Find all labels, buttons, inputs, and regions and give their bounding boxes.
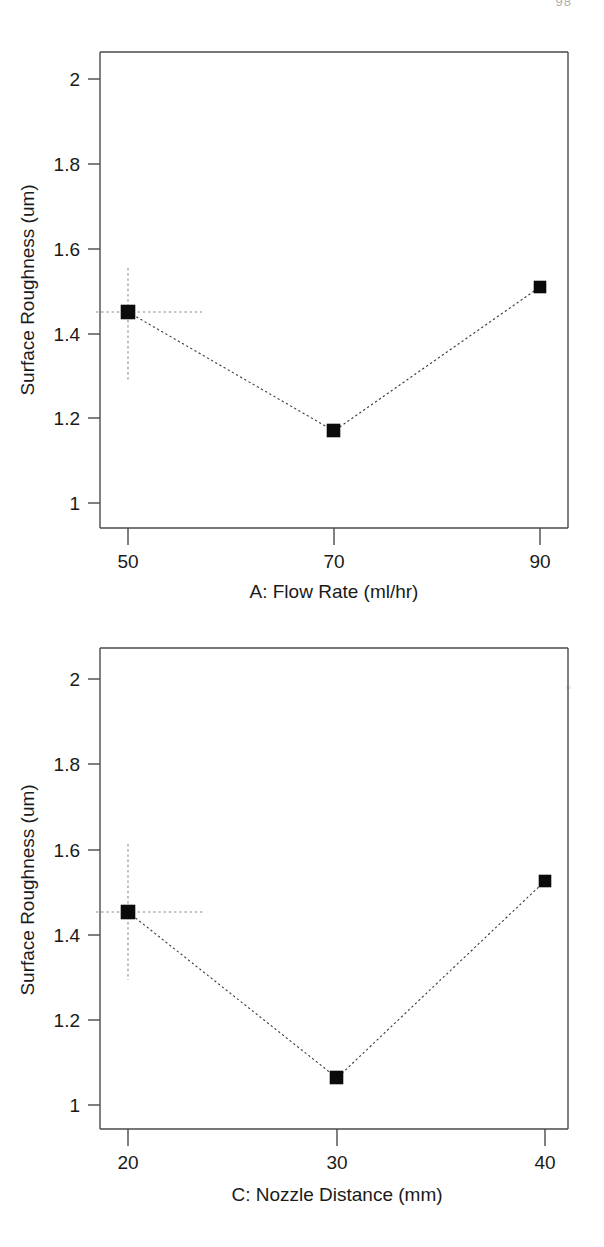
y-tick-label-1.6-flow: 1.6 (54, 239, 80, 260)
data-point-nozzle-20 (121, 905, 135, 919)
x-axis-title-flow: A: Flow Rate (ml/hr) (250, 581, 419, 602)
x-axis-title-nozzle: C: Nozzle Distance (mm) (231, 1184, 442, 1205)
x-tick-label-90-flow: 90 (529, 551, 550, 572)
x-tick-label-70-flow: 70 (323, 551, 344, 572)
x-tick-label-30-nozzle: 30 (326, 1152, 347, 1173)
data-point-nozzle-40 (539, 875, 551, 887)
data-point-flow-90 (534, 281, 546, 293)
y-tick-label-1.4-nozzle: 1.4 (54, 925, 81, 946)
one-factor-plot-nozzle-distance: 2 1.8 1.6 1.4 1.2 1 20 30 40 Surface Rou… (0, 620, 604, 1247)
y-tick-label-1-flow: 1 (69, 493, 80, 514)
x-tick-label-20-nozzle: 20 (117, 1152, 138, 1173)
x-axis-ticks-nozzle (128, 1129, 545, 1146)
x-tick-label-40-nozzle: 40 (534, 1152, 555, 1173)
y-tick-label-1.2-nozzle: 1.2 (54, 1010, 80, 1031)
y-axis-title-flow: Surface Roughness (um) (17, 184, 38, 395)
one-factor-plot-flow-rate: 2 1.8 1.6 1.4 1.2 1 50 70 90 Surface Rou… (0, 0, 604, 620)
y-axis-ticks-flow (88, 79, 100, 503)
y-axis-title-nozzle: Surface Roughness (um) (17, 784, 38, 995)
y-tick-label-2-flow: 2 (69, 69, 80, 90)
y-axis-ticks-nozzle (88, 679, 100, 1105)
y-tick-label-1-nozzle: 1 (69, 1095, 80, 1116)
data-point-nozzle-30 (330, 1071, 343, 1084)
series-line-nozzle (128, 881, 545, 1078)
flow-rate-chart-svg: 2 1.8 1.6 1.4 1.2 1 50 70 90 Surface Rou… (0, 0, 604, 620)
x-axis-ticks-flow (128, 528, 540, 545)
y-tick-label-1.8-nozzle: 1.8 (54, 754, 80, 775)
nozzle-distance-chart-svg: 2 1.8 1.6 1.4 1.2 1 20 30 40 Surface Rou… (0, 620, 604, 1247)
y-tick-label-1.4-flow: 1.4 (54, 324, 81, 345)
y-tick-label-1.8-flow: 1.8 (54, 154, 80, 175)
data-point-flow-70 (327, 424, 340, 437)
y-tick-label-1.6-nozzle: 1.6 (54, 840, 80, 861)
y-tick-label-2-nozzle: 2 (69, 669, 80, 690)
series-line-flow (128, 287, 540, 431)
x-tick-label-50-flow: 50 (117, 551, 138, 572)
data-point-flow-50 (121, 305, 135, 319)
y-tick-label-1.2-flow: 1.2 (54, 408, 80, 429)
